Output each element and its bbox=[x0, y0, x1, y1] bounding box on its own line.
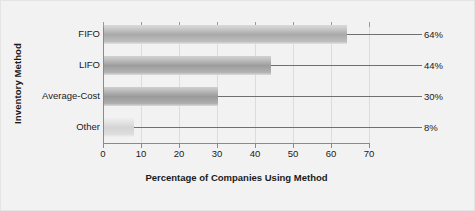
bar-other bbox=[104, 118, 134, 137]
x-tick-label-20: 20 bbox=[174, 149, 185, 159]
value-label-fifo: 64% bbox=[424, 30, 443, 40]
x-axis-line bbox=[103, 143, 370, 144]
x-axis-title: Percentage of Companies Using Method bbox=[103, 172, 370, 183]
x-tick-label-0: 0 bbox=[100, 149, 105, 159]
x-axis-tick-labels: 0 10 20 30 40 50 60 70 bbox=[103, 149, 370, 161]
leader-line-fifo bbox=[347, 34, 422, 35]
bar-average-cost bbox=[104, 87, 218, 106]
value-label-other: 8% bbox=[424, 123, 438, 133]
x-tick-label-50: 50 bbox=[288, 149, 299, 159]
value-label-average-cost: 30% bbox=[424, 92, 443, 102]
bar-lifo bbox=[104, 56, 271, 75]
x-tick-label-10: 10 bbox=[136, 149, 147, 159]
x-tick-label-70: 70 bbox=[364, 149, 375, 159]
y-tick-label-other: Other bbox=[28, 122, 100, 132]
value-label-lifo: 44% bbox=[424, 61, 443, 71]
data-value-labels: 64% 44% 30% 8% bbox=[424, 22, 472, 144]
leader-line-other bbox=[134, 127, 422, 128]
plot-area bbox=[103, 22, 370, 144]
bar-fifo bbox=[104, 25, 347, 44]
chart-figure: Inventory Method FIFO LIFO Average-Cost … bbox=[0, 0, 475, 211]
leader-line-lifo bbox=[271, 65, 422, 66]
x-tick-label-60: 60 bbox=[326, 149, 337, 159]
top-tick-70 bbox=[369, 22, 370, 27]
gridline-70 bbox=[369, 22, 370, 144]
y-tick-label-average-cost: Average-Cost bbox=[28, 91, 100, 101]
x-tick-label-40: 40 bbox=[250, 149, 261, 159]
x-tick-label-30: 30 bbox=[212, 149, 223, 159]
y-axis-tick-labels: FIFO LIFO Average-Cost Other bbox=[26, 22, 100, 144]
y-axis-title: Inventory Method bbox=[8, 22, 26, 144]
y-axis-title-text: Inventory Method bbox=[12, 43, 23, 124]
leader-line-average-cost bbox=[218, 96, 422, 97]
y-tick-label-lifo: LIFO bbox=[28, 60, 100, 70]
y-tick-label-fifo: FIFO bbox=[28, 29, 100, 39]
